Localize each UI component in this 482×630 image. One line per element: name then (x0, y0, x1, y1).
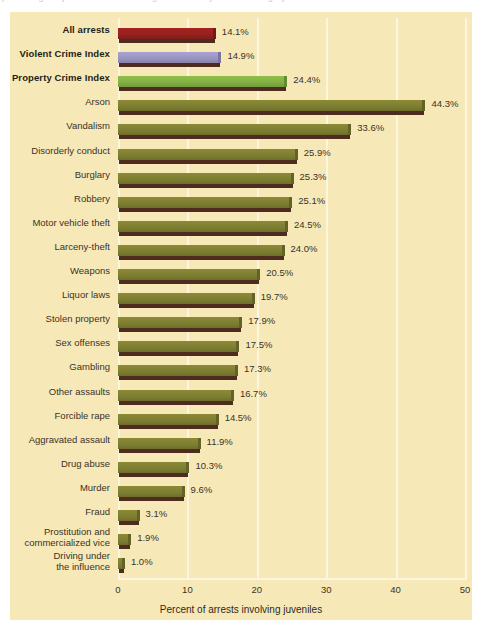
bar-value-label: 1.9% (137, 532, 159, 543)
bar[interactable] (118, 173, 294, 188)
bar-end-cap (236, 341, 239, 352)
bar-row[interactable]: Murder9.6% (10, 482, 472, 508)
bar-row[interactable]: Liquor laws19.7% (10, 289, 472, 315)
bar-value-label: 17.5% (245, 339, 272, 350)
bar-end-cap (128, 534, 131, 545)
bar-value-label: 9.6% (191, 484, 213, 495)
bar[interactable] (118, 100, 425, 115)
bar[interactable] (118, 245, 285, 260)
x-tick-50: 50 (460, 584, 471, 595)
bar-row[interactable]: Gambling17.3% (10, 361, 472, 387)
bar[interactable] (118, 365, 238, 380)
bar-shadow (119, 545, 130, 549)
bar[interactable] (118, 317, 242, 332)
bar[interactable] (118, 486, 185, 501)
bar-row[interactable]: Driving underthe influence1.0% (10, 554, 472, 580)
bar-value-label: 3.1% (146, 508, 168, 519)
bar-row[interactable]: Robbery25.1% (10, 193, 472, 219)
bar-row[interactable]: Arson44.3% (10, 96, 472, 122)
bar-end-cap (284, 76, 287, 87)
bar[interactable] (118, 341, 239, 356)
bar[interactable] (118, 534, 131, 549)
bar-category-label: Sex offenses (10, 337, 110, 348)
bar-shadow (119, 232, 287, 236)
bar-end-cap (295, 149, 298, 160)
bar[interactable] (118, 197, 292, 212)
bar-value-label: 14.9% (227, 50, 254, 61)
bar[interactable] (118, 76, 287, 91)
bar-category-label: Robbery (10, 193, 110, 204)
bar-end-cap (122, 558, 125, 569)
bar-row[interactable]: Drug abuse10.3% (10, 458, 472, 484)
bar-shadow (119, 63, 220, 67)
bar[interactable] (118, 149, 298, 164)
bar-row[interactable]: Stolen property17.9% (10, 313, 472, 339)
bar-end-cap (218, 52, 221, 63)
bar-row[interactable]: Burglary25.3% (10, 169, 472, 195)
bar-row[interactable]: Aggravated assault11.9% (10, 434, 472, 460)
bar[interactable] (118, 414, 219, 429)
x-tick-40: 40 (390, 584, 401, 595)
bar-category-label: Liquor laws (10, 289, 110, 300)
bar-row[interactable]: Sex offenses17.5% (10, 337, 472, 363)
x-tick-20: 20 (252, 584, 263, 595)
bar-row[interactable]: Vandalism33.6% (10, 120, 472, 146)
bar[interactable] (118, 558, 125, 573)
chart-panel: All arrests14.1%Violent Crime Index14.9%… (10, 12, 472, 620)
bar-value-label: 24.5% (294, 219, 321, 230)
bar-category-label: Motor vehicle theft (10, 217, 110, 228)
bar-shadow (119, 449, 200, 453)
bar-row[interactable]: Forcible rape14.5% (10, 410, 472, 436)
x-tick-10: 10 (182, 584, 193, 595)
bar-value-label: 17.3% (244, 363, 271, 374)
bar-fill (118, 462, 189, 473)
bar[interactable] (118, 510, 140, 525)
bar-fill (118, 365, 238, 376)
bar-value-label: 1.0% (131, 556, 153, 567)
bar-shadow (119, 256, 284, 260)
bar-end-cap (239, 317, 242, 328)
bar-shadow (119, 328, 241, 332)
bar-fill (118, 149, 298, 160)
bar-fill (118, 221, 288, 232)
bar-category-label: Burglary (10, 169, 110, 180)
bar-value-label: 19.7% (261, 291, 288, 302)
bar-value-label: 14.1% (222, 26, 249, 37)
bar-fill (118, 390, 234, 401)
bar-shadow (119, 135, 350, 139)
bar[interactable] (118, 438, 201, 453)
bar[interactable] (118, 269, 260, 284)
bar-row[interactable]: All arrests14.1% (10, 24, 472, 50)
bar-end-cap (231, 390, 234, 401)
bar-row[interactable]: Larceny-theft24.0% (10, 241, 472, 267)
bar[interactable] (118, 28, 216, 43)
bar[interactable] (118, 221, 288, 236)
bar-row[interactable]: Other assaults16.7% (10, 386, 472, 412)
bar-shadow (119, 280, 259, 284)
bar-shadow (119, 401, 233, 405)
bar[interactable] (118, 462, 189, 477)
bar-row[interactable]: Violent Crime Index14.9% (10, 48, 472, 74)
bar-row[interactable]: Motor vehicle theft24.5% (10, 217, 472, 243)
bar-end-cap (216, 414, 219, 425)
bar-fill (118, 76, 287, 87)
bar-row[interactable]: Disorderly conduct25.9% (10, 145, 472, 171)
bar-value-label: 24.4% (293, 74, 320, 85)
bar-end-cap (252, 293, 255, 304)
bar-category-label: Fraud (10, 506, 110, 517)
bar[interactable] (118, 390, 234, 405)
bar-row[interactable]: Property Crime Index24.4% (10, 72, 472, 98)
bar-shadow (119, 39, 215, 43)
bar[interactable] (118, 52, 221, 67)
bar-end-cap (186, 462, 189, 473)
bar-shadow (119, 497, 184, 501)
bar-row[interactable]: Weapons20.5% (10, 265, 472, 291)
bar-value-label: 44.3% (431, 98, 458, 109)
bar-shadow (119, 376, 237, 380)
bar-shadow (119, 425, 218, 429)
clipped-caption-fragment: percentage of juvenile arrests among all… (0, 0, 482, 10)
bar-category-label: Arson (10, 96, 110, 107)
bar[interactable] (118, 293, 255, 308)
bar-value-label: 16.7% (240, 388, 267, 399)
bar[interactable] (118, 124, 351, 139)
